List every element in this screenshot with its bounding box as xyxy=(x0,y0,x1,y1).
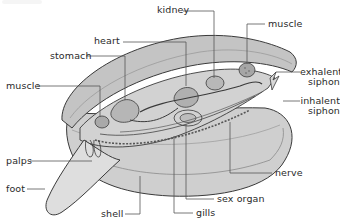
label-shell: shell xyxy=(101,209,124,219)
label-muscle-top: muscle xyxy=(268,19,303,29)
label-inhalent-line2: siphon xyxy=(300,106,340,116)
siphons xyxy=(270,72,279,90)
label-foot: foot xyxy=(6,184,25,194)
label-stomach: stomach xyxy=(50,51,92,61)
label-sex-organ: sex organ xyxy=(217,194,265,204)
label-gills: gills xyxy=(196,208,215,218)
label-muscle-left: muscle xyxy=(6,81,41,91)
label-kidney: kidney xyxy=(157,5,189,15)
label-exhalent-siphon: exhalent siphon xyxy=(300,67,340,87)
label-nerve: nerve xyxy=(275,168,303,178)
label-inhalent-siphon: inhalent siphon xyxy=(300,96,340,116)
label-exhalent-line2: siphon xyxy=(300,77,340,87)
mollusc-anatomy-diagram: kidney muscle heart stomach muscle exhal… xyxy=(0,0,340,222)
mollusc-illustration xyxy=(0,0,340,222)
label-heart: heart xyxy=(94,36,120,46)
label-palps: palps xyxy=(6,156,32,166)
